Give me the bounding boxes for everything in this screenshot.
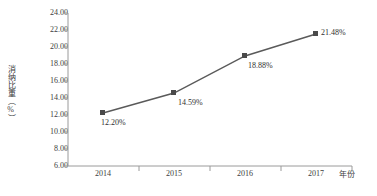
data-point-marker (100, 110, 105, 115)
x-tick-label-2015: 2015 (166, 170, 182, 178)
data-point-label: 12.20% (101, 119, 126, 127)
y-axis-ticks (63, 13, 68, 166)
data-point-label: 18.88% (248, 62, 273, 70)
data-line-series-1 (103, 34, 316, 113)
data-point-label: 14.59% (178, 99, 203, 107)
data-point-marker (313, 31, 318, 36)
data-point-label: 21.48% (321, 29, 346, 37)
line-chart: 消纳比重（%） 24.00 22.00 20.00 18.00 16.00 14… (0, 0, 377, 196)
data-point-marker (242, 53, 247, 58)
x-tick-label-2016: 2016 (237, 170, 253, 178)
x-axis-title: 年份 (339, 168, 355, 179)
x-tick-label-2017: 2017 (308, 170, 324, 178)
data-point-marker (171, 90, 176, 95)
x-tick-label-2014: 2014 (95, 170, 111, 178)
